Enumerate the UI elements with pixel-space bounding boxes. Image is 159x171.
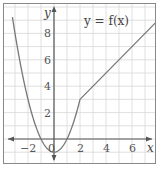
- x-tick-label: 4: [103, 142, 110, 155]
- function-graph: −202462468 y x y = f(x): [0, 0, 159, 171]
- y-tick-label: 6: [44, 54, 51, 67]
- y-tick-label: 4: [44, 80, 51, 93]
- x-tick-label: 0: [48, 142, 55, 155]
- y-axis-label: y: [43, 6, 51, 20]
- y-tick-label: 8: [44, 27, 51, 40]
- x-tick-label: 6: [129, 142, 136, 155]
- x-axis-label: x: [147, 141, 154, 155]
- x-tick-label: 2: [77, 142, 84, 155]
- y-tick-label: 2: [44, 107, 51, 120]
- function-label: y = f(x): [83, 14, 129, 28]
- x-tick-label: −2: [20, 142, 36, 155]
- function-curve: [12, 17, 155, 152]
